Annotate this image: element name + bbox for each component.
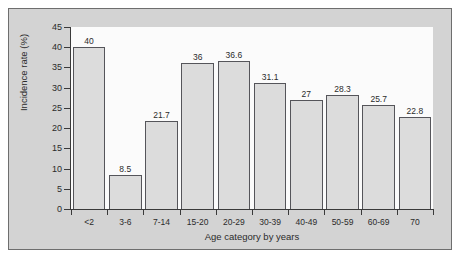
x-axis-category-label: 3-6 — [119, 217, 131, 227]
bar: 22.8 — [399, 117, 432, 209]
bar: 21.7 — [145, 121, 178, 209]
y-axis-tick-label-wrap: 15 — [17, 148, 62, 149]
bar: 31.1 — [254, 83, 287, 209]
bar-value-label: 28.3 — [334, 85, 351, 94]
y-axis-tick-label: 5 — [22, 184, 62, 193]
y-axis-tick-label: 30 — [22, 83, 62, 92]
y-axis-tick-label: 25 — [22, 103, 62, 112]
bar: 27 — [290, 100, 323, 209]
bar-value-label: 22.8 — [407, 107, 424, 116]
y-axis-tick-label-wrap: 25 — [17, 108, 62, 109]
y-axis-tick — [64, 209, 70, 210]
x-axis-tick — [216, 210, 217, 215]
y-axis-tick-label-wrap: 10 — [17, 169, 62, 170]
y-axis-tick — [64, 88, 70, 89]
y-axis-tick — [64, 47, 70, 48]
x-axis-tick — [433, 210, 434, 215]
y-axis-tick-label-wrap: 5 — [17, 189, 62, 190]
x-axis-category-label: 20-29 — [223, 217, 245, 227]
y-axis-tick — [64, 189, 70, 190]
x-axis-tick — [252, 210, 253, 215]
x-axis-tick — [324, 210, 325, 215]
x-axis-title: Age category by years — [71, 231, 433, 242]
bar: 25.7 — [362, 105, 395, 209]
y-axis-tick-label: 35 — [22, 63, 62, 72]
x-axis-tick — [361, 210, 362, 215]
y-axis-tick — [64, 27, 70, 28]
y-axis-tick-label: 40 — [22, 43, 62, 52]
y-axis-tick — [64, 169, 70, 170]
x-axis-tick — [397, 210, 398, 215]
x-axis-category-label: <2 — [84, 217, 94, 227]
chart-figure-frame: Incidence rate (%) 051015202530354045 40… — [8, 8, 452, 250]
x-axis-category-label: 7-14 — [153, 217, 170, 227]
y-axis-tick-label-wrap: 35 — [17, 67, 62, 68]
y-axis-tick-label: 20 — [22, 124, 62, 133]
y-axis-tick — [64, 128, 70, 129]
y-axis-tick-label-wrap: 20 — [17, 128, 62, 129]
x-axis-category-label: 70 — [410, 217, 419, 227]
y-axis-tick-label: 45 — [22, 23, 62, 32]
bar: 36 — [181, 63, 214, 209]
plot-area: 408.521.73636.631.12728.325.722.8 — [71, 27, 433, 209]
y-axis-tick-label: 15 — [22, 144, 62, 153]
x-axis-category-label: 30-39 — [259, 217, 281, 227]
bar: 40 — [73, 47, 106, 209]
y-axis-tick-label-wrap: 0 — [17, 209, 62, 210]
x-axis-category-label: 60-69 — [368, 217, 390, 227]
bar-value-label: 25.7 — [370, 95, 387, 104]
bar: 8.5 — [109, 175, 142, 209]
x-axis-tick — [288, 210, 289, 215]
bar-value-label: 36.6 — [226, 51, 243, 60]
x-axis-category-label: 50-59 — [332, 217, 354, 227]
x-axis-tick — [143, 210, 144, 215]
y-axis-tick-label: 10 — [22, 164, 62, 173]
bar-value-label: 27 — [302, 90, 311, 99]
y-axis-tick-label-wrap: 40 — [17, 47, 62, 48]
x-axis-category-label: 40-49 — [295, 217, 317, 227]
y-axis-tick-label: 0 — [22, 205, 62, 214]
y-axis-tick-label-wrap: 30 — [17, 88, 62, 89]
bar-value-label: 36 — [193, 53, 202, 62]
bar-value-label: 40 — [84, 37, 93, 46]
y-axis-tick — [64, 108, 70, 109]
y-axis-tick — [64, 67, 70, 68]
x-axis-tick — [107, 210, 108, 215]
bar-value-label: 31.1 — [262, 73, 279, 82]
x-axis-tick — [180, 210, 181, 215]
x-axis-tick — [71, 210, 72, 215]
bar-value-label: 21.7 — [153, 111, 170, 120]
x-axis-category-label: 15-20 — [187, 217, 209, 227]
y-axis-tick-label-wrap: 45 — [17, 27, 62, 28]
bar: 28.3 — [326, 95, 359, 209]
bar-value-label: 8.5 — [119, 165, 131, 174]
bar: 36.6 — [218, 61, 251, 209]
y-axis-tick — [64, 148, 70, 149]
